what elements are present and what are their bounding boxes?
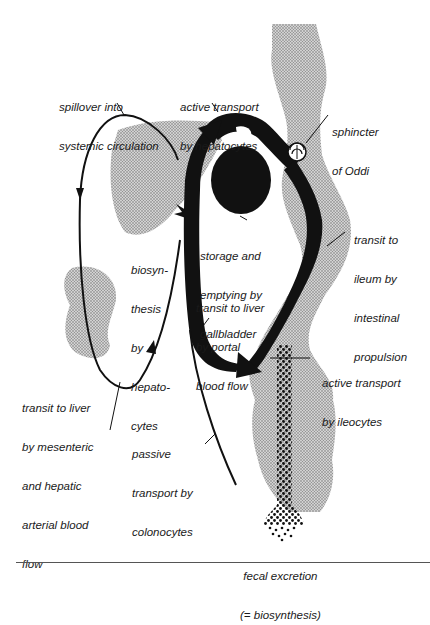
label-portal-blood-flow: transit to liver by portal blood flow (196, 276, 264, 419)
label-sphincter-of-oddi: sphincter of Oddi (332, 100, 379, 204)
label-active-transport-ileocytes: active transport by ileocytes (322, 351, 401, 455)
bottom-rule (16, 562, 430, 563)
fecal-dots (269, 527, 296, 542)
loop-arrow-down (76, 188, 84, 200)
label-fecal-excretion: fecal excretion (= biosynthesis) (240, 544, 321, 625)
label-active-transport-hepatocytes: active transport by hepatocytes (180, 75, 259, 179)
label-spillover: spillover into systemic circulation (59, 75, 159, 179)
label-mesenteric-flow: transit to liver by mesenteric and hepat… (22, 376, 94, 597)
label-passive-transport-colonocytes: passive transport by colonocytes (132, 422, 193, 565)
sphincter-icon (288, 143, 306, 161)
